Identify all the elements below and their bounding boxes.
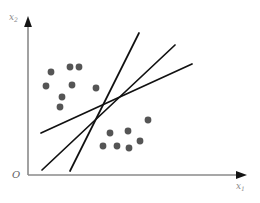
x-axis-arrowhead (236, 171, 247, 179)
series-class-lower-right (100, 117, 152, 152)
data-point (93, 85, 100, 92)
origin-label: O (12, 170, 20, 180)
data-point (145, 117, 152, 124)
data-point (43, 83, 50, 90)
data-point (69, 82, 76, 89)
data-point (100, 143, 107, 150)
y-axis-label-subscript: 2 (14, 16, 18, 23)
data-point (48, 69, 55, 76)
data-point (126, 145, 133, 152)
y-axis-arrowhead (24, 16, 32, 27)
data-point (114, 143, 121, 150)
data-point (57, 104, 64, 111)
figure-container: x2 x1 O (0, 0, 260, 203)
data-point (59, 94, 66, 101)
data-point (107, 130, 114, 137)
y-axis-label: x2 (9, 13, 18, 23)
data-point (67, 64, 74, 71)
x-axis-label: x1 (236, 182, 245, 192)
scatter-plot-svg (0, 0, 260, 203)
x-axis-label-subscript: 1 (241, 185, 245, 192)
decision-boundary-lines (41, 33, 192, 171)
data-point (137, 138, 144, 145)
series-class-upper-left (43, 64, 100, 111)
data-point (125, 128, 132, 135)
data-point (76, 64, 83, 71)
